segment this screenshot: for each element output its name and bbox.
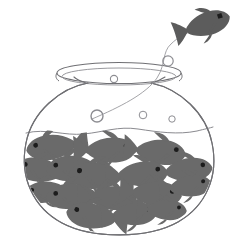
bubble-large-inner xyxy=(91,110,103,122)
illustration-canvas xyxy=(0,0,238,244)
water-surface-line xyxy=(26,127,213,134)
bubble-on-rim xyxy=(110,75,117,82)
jumping-fish xyxy=(169,0,235,51)
bubble-above-rim xyxy=(163,56,173,66)
bowl-rim-inner xyxy=(62,68,176,85)
fishbowl-illustration: Crowded fishbowl with one fish jumping o… xyxy=(0,0,238,244)
bubble-small-inner xyxy=(169,116,175,122)
fish-school xyxy=(13,123,214,241)
bubble-mid-inner xyxy=(139,111,147,119)
